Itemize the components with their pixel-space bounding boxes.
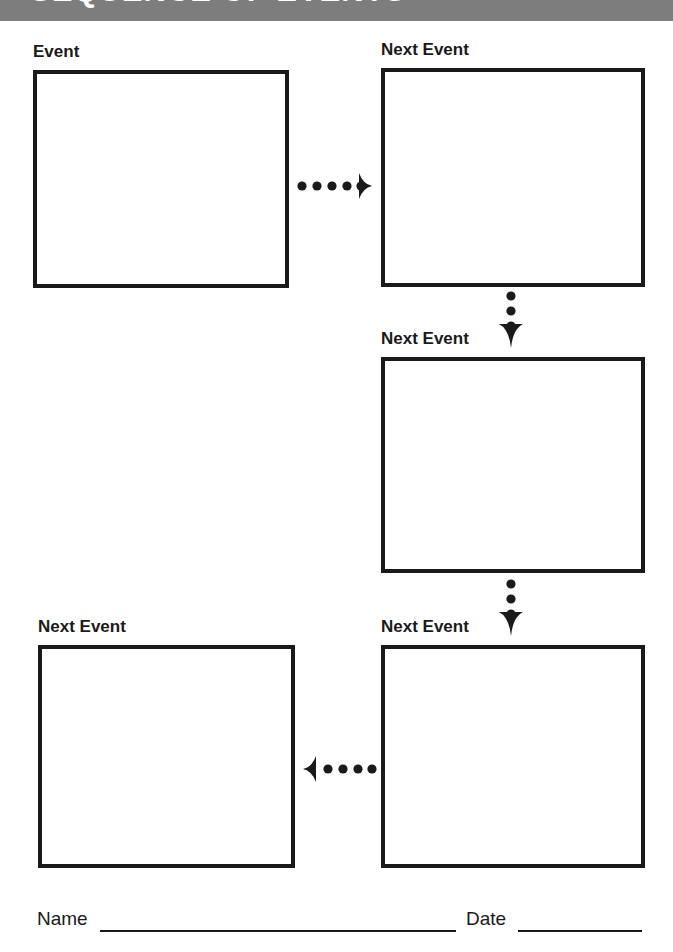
event-3-box[interactable] xyxy=(381,357,645,573)
name-label: Name xyxy=(37,908,88,930)
footer: Name Date xyxy=(0,900,673,940)
event-4-box[interactable] xyxy=(381,645,645,868)
arrow-left-event-4-to-5 xyxy=(301,751,379,791)
event-1-box[interactable] xyxy=(33,70,289,288)
arrow-right-event-1-to-2 xyxy=(296,168,374,208)
event-2-box[interactable] xyxy=(381,68,645,287)
event-4-label: Next Event xyxy=(381,617,469,637)
event-1-label: Event xyxy=(33,42,79,62)
event-5-box[interactable] xyxy=(38,645,295,868)
event-3-label: Next Event xyxy=(381,329,469,349)
arrow-down-event-2-to-3 xyxy=(495,290,527,356)
page-title: SEQUENCE OF EVENTS xyxy=(30,0,406,8)
name-input-line[interactable] xyxy=(100,930,456,932)
event-2-label: Next Event xyxy=(381,40,469,60)
date-input-line[interactable] xyxy=(518,930,642,932)
event-5-label: Next Event xyxy=(38,617,126,637)
arrow-down-event-3-to-4 xyxy=(495,578,527,644)
title-banner: SEQUENCE OF EVENTS xyxy=(0,0,673,21)
worksheet-page: SEQUENCE OF EVENTS Event Next Event Next… xyxy=(0,0,673,952)
date-label: Date xyxy=(466,908,506,930)
